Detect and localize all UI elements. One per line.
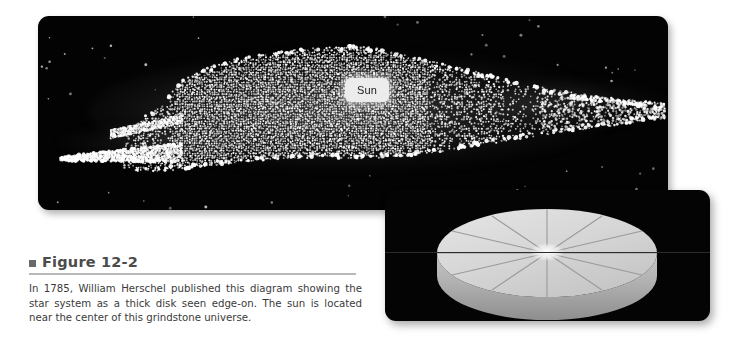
sun-label: Sun: [345, 78, 389, 102]
main-figure-panel: [38, 16, 668, 210]
star-cloud-canvas: [38, 16, 668, 210]
inset-grindstone-panel: [385, 190, 710, 321]
figure-label-text: Figure 12-2: [42, 254, 138, 270]
figure-label-divider: [29, 273, 356, 275]
figure-label-row: Figure 12-2: [29, 254, 369, 270]
square-bullet-icon: [29, 260, 36, 267]
figure-caption-block: Figure 12-2 In 1785, William Herschel pu…: [29, 254, 369, 326]
sun-label-text: Sun: [357, 84, 377, 96]
grindstone-disk-illustration: [385, 190, 710, 321]
figure-caption-text: In 1785, William Herschel published this…: [29, 282, 362, 326]
inset-horizon-line: [385, 252, 710, 253]
